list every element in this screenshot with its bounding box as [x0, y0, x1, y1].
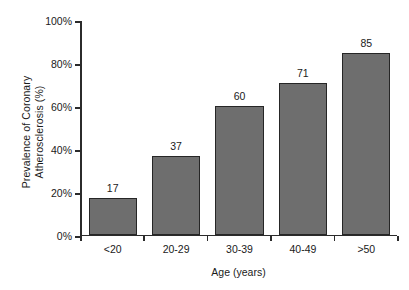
x-axis-tick — [397, 236, 399, 241]
y-axis-tick-labels: 0%20%40%60%80%100% — [36, 0, 72, 290]
x-axis-line — [80, 235, 397, 237]
bar[interactable] — [215, 106, 263, 234]
bar-slot: 37 — [144, 21, 207, 235]
bar-value-label: 71 — [271, 68, 334, 79]
bar-slot: 85 — [335, 21, 398, 235]
x-axis-tick — [80, 236, 82, 241]
x-axis-tick — [207, 236, 209, 241]
bar-chart-figure: Prevalence of Coronary Atherosclerosis (… — [0, 0, 409, 290]
x-axis-tick-label: >50 — [335, 243, 398, 255]
y-axis-tick-label: 20% — [36, 188, 72, 198]
y-axis-tick — [75, 64, 80, 66]
bar-slot: 71 — [271, 21, 334, 235]
bar[interactable] — [279, 83, 327, 235]
bar-value-label: 17 — [81, 183, 144, 194]
y-axis-tick-label: 40% — [36, 145, 72, 155]
bar[interactable] — [342, 53, 390, 234]
bar-slot: 60 — [208, 21, 271, 235]
plot-area: 1737607185 — [80, 21, 397, 236]
y-axis-title-line1: Prevalence of Coronary — [20, 76, 33, 189]
y-axis-tick — [75, 107, 80, 109]
y-axis-tick-label: 60% — [36, 102, 72, 112]
bar-value-label: 37 — [144, 141, 207, 152]
bar-value-label: 85 — [335, 38, 398, 49]
bars-layer: 1737607185 — [81, 21, 397, 235]
bar-slot: 17 — [81, 21, 144, 235]
y-axis-tick-label: 100% — [36, 16, 72, 26]
x-axis-tick-label: <20 — [81, 243, 144, 255]
y-axis-tick-label: 80% — [36, 59, 72, 69]
x-axis-title: Age (years) — [80, 266, 397, 278]
bar-value-label: 60 — [208, 91, 271, 102]
x-axis-tick — [334, 236, 336, 241]
y-axis-tick — [75, 21, 80, 23]
x-axis-tick — [143, 236, 145, 241]
y-axis-tick — [75, 193, 80, 195]
y-axis-tick — [75, 150, 80, 152]
x-axis-tick-labels: <2020-2930-3940-49>50 — [81, 243, 397, 259]
x-axis-tick-label: 40-49 — [271, 243, 334, 255]
x-axis-tick-label: 30-39 — [208, 243, 271, 255]
x-axis-tick-label: 20-29 — [144, 243, 207, 255]
x-axis-tick — [270, 236, 272, 241]
bar[interactable] — [89, 198, 137, 234]
y-axis-tick-label: 0% — [36, 231, 72, 241]
bar[interactable] — [152, 156, 200, 235]
